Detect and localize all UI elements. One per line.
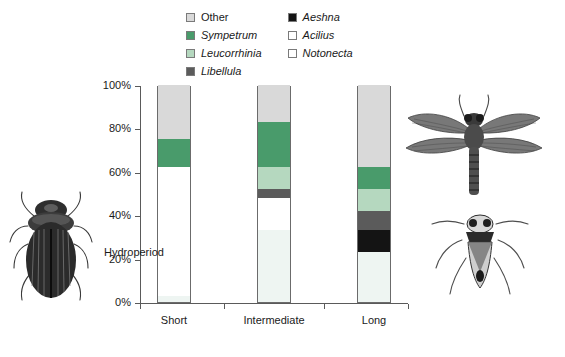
y-axis-tick: 40% bbox=[135, 216, 140, 217]
legend-swatch-sympetrum bbox=[186, 31, 195, 40]
legend-item-notonecta[interactable]: Notonecta bbox=[288, 46, 353, 61]
y-axis-line bbox=[140, 86, 141, 304]
legend-label: Other bbox=[201, 12, 229, 23]
legend-swatch-other bbox=[186, 13, 195, 22]
x-axis-tick bbox=[324, 304, 325, 309]
bar-segment-short-other[interactable] bbox=[158, 85, 190, 139]
x-axis-title: Hydroperiod bbox=[104, 246, 164, 258]
legend-swatch-leucorrhinia bbox=[186, 49, 195, 58]
x-axis-line bbox=[140, 303, 408, 304]
y-axis-tick: 60% bbox=[135, 173, 140, 174]
legend-label: Leucorrhinia bbox=[201, 48, 262, 59]
bar-segment-intermediate-leucorrhinia[interactable] bbox=[258, 167, 290, 189]
bar-segment-intermediate-sympetrum[interactable] bbox=[258, 122, 290, 168]
bar-segment-long-notonecta[interactable] bbox=[358, 252, 390, 302]
legend-label: Notonecta bbox=[303, 48, 353, 59]
y-axis-tick-label: 0% bbox=[115, 296, 131, 308]
legend-swatch-notonecta bbox=[288, 49, 297, 58]
legend-column-2: AeshnaAciliusNotonecta bbox=[288, 10, 353, 79]
chart-legend: OtherSympetrumLeucorrhiniaLibellulaAeshn… bbox=[186, 10, 386, 79]
bar-segment-intermediate-acilius[interactable] bbox=[258, 198, 290, 231]
backswimmer-illustration bbox=[428, 196, 532, 300]
bar-intermediate[interactable] bbox=[257, 86, 291, 303]
x-axis-tick bbox=[408, 304, 409, 309]
bar-segment-intermediate-notonecta[interactable] bbox=[258, 230, 290, 302]
x-axis-label-long: Long bbox=[362, 314, 386, 326]
legend-item-sympetrum[interactable]: Sympetrum bbox=[186, 28, 262, 43]
dragonfly-illustration bbox=[398, 92, 550, 200]
bar-short[interactable] bbox=[157, 86, 191, 303]
bar-segment-long-aeshna[interactable] bbox=[358, 230, 390, 252]
legend-swatch-aeshna bbox=[288, 13, 297, 22]
bar-segment-long-leucorrhinia[interactable] bbox=[358, 189, 390, 211]
bar-segment-short-notonecta[interactable] bbox=[158, 296, 190, 303]
x-axis-tick bbox=[140, 304, 141, 309]
y-axis-tick-label: 40% bbox=[109, 209, 131, 221]
legend-column-1: OtherSympetrumLeucorrhiniaLibellula bbox=[186, 10, 262, 79]
diving-beetle-illustration bbox=[8, 186, 94, 304]
y-axis-tick-label: 60% bbox=[109, 166, 131, 178]
legend-label: Libellula bbox=[201, 66, 241, 77]
plot-area: 0%20%40%60%80%100% ShortIntermediateLong bbox=[140, 86, 408, 304]
bar-segment-short-acilius[interactable] bbox=[158, 167, 190, 295]
bar-segment-intermediate-other[interactable] bbox=[258, 85, 290, 122]
legend-label: Sympetrum bbox=[201, 30, 257, 41]
legend-swatch-libellula bbox=[186, 67, 195, 76]
x-axis-tick bbox=[224, 304, 225, 309]
bar-segment-long-sympetrum[interactable] bbox=[358, 167, 390, 189]
y-axis-tick: 100% bbox=[135, 86, 140, 87]
bar-segment-long-libellula[interactable] bbox=[358, 211, 390, 231]
y-axis-tick-label: 80% bbox=[109, 122, 131, 134]
legend-label: Aeshna bbox=[303, 12, 340, 23]
bar-segment-long-other[interactable] bbox=[358, 85, 390, 167]
legend-swatch-acilius bbox=[288, 31, 297, 40]
bar-long[interactable] bbox=[357, 86, 391, 303]
legend-item-other[interactable]: Other bbox=[186, 10, 262, 25]
x-axis-label-intermediate: Intermediate bbox=[243, 314, 304, 326]
y-axis-tick: 80% bbox=[135, 129, 140, 130]
y-axis-tick-label: 100% bbox=[103, 79, 131, 91]
legend-item-acilius[interactable]: Acilius bbox=[288, 28, 353, 43]
x-axis-label-short: Short bbox=[161, 314, 187, 326]
legend-item-aeshna[interactable]: Aeshna bbox=[288, 10, 353, 25]
bar-segment-short-sympetrum[interactable] bbox=[158, 139, 190, 167]
bar-segment-intermediate-libellula[interactable] bbox=[258, 189, 290, 198]
legend-item-leucorrhinia[interactable]: Leucorrhinia bbox=[186, 46, 262, 61]
y-axis-tick: 20% bbox=[135, 260, 140, 261]
legend-item-libellula[interactable]: Libellula bbox=[186, 64, 262, 79]
legend-label: Acilius bbox=[303, 30, 335, 41]
